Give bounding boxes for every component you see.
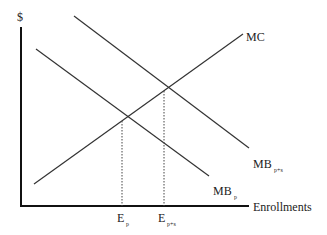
mb-p-curve bbox=[36, 49, 209, 176]
svg-text:MB: MB bbox=[253, 157, 272, 171]
y-axis-label: $ bbox=[17, 10, 23, 24]
mc-label: MC bbox=[246, 30, 265, 44]
svg-text:p: p bbox=[126, 221, 129, 227]
mb-p-label: MB p bbox=[213, 184, 237, 200]
mb-ps-curve bbox=[74, 16, 249, 148]
mb-ps-label: MB p+s bbox=[253, 157, 283, 173]
svg-text:E: E bbox=[117, 211, 124, 225]
svg-text:MB: MB bbox=[213, 184, 232, 198]
ep-label: E p bbox=[117, 211, 129, 227]
svg-text:p: p bbox=[234, 194, 237, 200]
svg-text:E: E bbox=[158, 211, 165, 225]
mc-curve bbox=[34, 34, 243, 184]
x-axis-label: Enrollments bbox=[253, 200, 312, 214]
economics-diagram: $ Enrollments MC MB p+s MB p E p E p+s bbox=[0, 0, 327, 235]
svg-text:p+s: p+s bbox=[167, 221, 176, 227]
eps-label: E p+s bbox=[158, 211, 176, 227]
svg-text:p+s: p+s bbox=[274, 167, 283, 173]
